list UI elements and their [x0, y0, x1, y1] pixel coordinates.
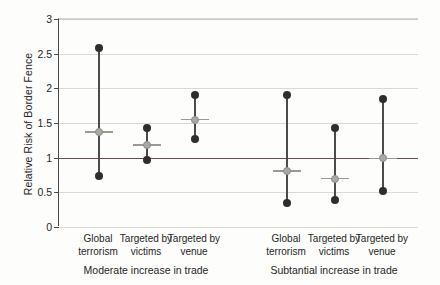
gridline [59, 88, 418, 89]
y-axis-title: Relative Risk of Border Fence [22, 34, 34, 214]
point-estimate-marker [379, 154, 387, 162]
gridline [59, 19, 418, 20]
interval-upper-bound-marker [143, 124, 151, 132]
point-estimate-marker [283, 167, 291, 175]
interval-upper-bound-marker [191, 91, 199, 99]
y-axis-tick [54, 192, 59, 193]
gridline [59, 123, 418, 124]
y-axis-tick [54, 123, 59, 124]
y-axis-tick-label: 2.5 [37, 48, 52, 60]
y-axis-tick [54, 227, 59, 228]
chart-figure: Relative Risk of Border Fence 00.511.522… [0, 0, 440, 285]
interval-lower-bound-marker [143, 156, 151, 164]
gridline [59, 192, 418, 193]
interval-upper-bound-marker [95, 44, 103, 52]
y-axis-tick [54, 19, 59, 20]
reference-line [59, 158, 418, 160]
interval-upper-bound-marker [331, 124, 339, 132]
gridline [59, 227, 418, 228]
plot-area: 00.511.522.53 [58, 18, 418, 226]
confidence-interval-line [286, 95, 288, 204]
y-axis-tick-label: 1 [46, 152, 52, 164]
point-estimate-marker [143, 141, 151, 149]
point-estimate-marker [95, 128, 103, 136]
y-axis-tick-label: 1.5 [37, 117, 52, 129]
interval-lower-bound-marker [191, 135, 199, 143]
interval-lower-bound-marker [95, 172, 103, 180]
confidence-interval-line [382, 99, 384, 191]
panel-label: Subtantial increase in trade [270, 264, 397, 276]
panel-label: Moderate increase in trade [84, 264, 209, 276]
x-axis-category-label: Targeted byvenue [343, 233, 421, 258]
confidence-interval-line [98, 48, 100, 176]
interval-lower-bound-marker [283, 199, 291, 207]
y-axis-tick-label: 2 [46, 82, 52, 94]
y-axis-tick-label: 0.5 [37, 186, 52, 198]
y-axis-tick [54, 88, 59, 89]
y-axis-tick [54, 54, 59, 55]
point-estimate-marker [191, 116, 199, 124]
interval-lower-bound-marker [379, 187, 387, 195]
point-estimate-marker [331, 175, 339, 183]
x-axis-category-label: Targeted byvenue [155, 233, 233, 258]
interval-upper-bound-marker [379, 95, 387, 103]
y-axis-tick-label: 3 [46, 13, 52, 25]
gridline [59, 54, 418, 55]
confidence-interval-line [334, 128, 336, 200]
y-axis-tick-label: 0 [46, 221, 52, 233]
interval-upper-bound-marker [283, 91, 291, 99]
interval-lower-bound-marker [331, 196, 339, 204]
